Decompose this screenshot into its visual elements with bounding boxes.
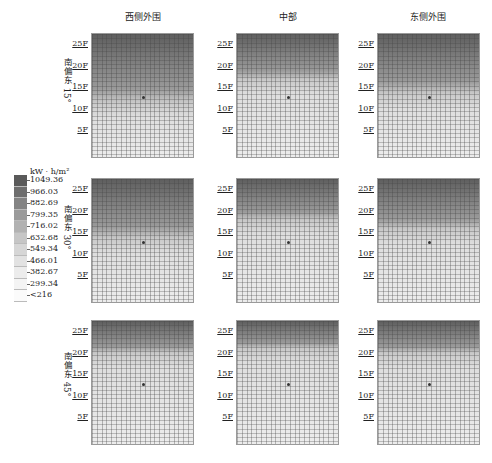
floor-label: 25F bbox=[64, 184, 88, 193]
measure-point-marker bbox=[142, 96, 145, 99]
legend-label: 1049.36 bbox=[30, 175, 63, 184]
floor-label: 5F bbox=[64, 125, 88, 134]
floor-label: 15F bbox=[64, 369, 88, 378]
floor-label: 20F bbox=[209, 206, 233, 215]
floor-label: 5F bbox=[350, 125, 374, 134]
floor-label: 5F bbox=[350, 270, 374, 279]
column-title-west: 西侧外围 bbox=[88, 10, 198, 23]
floor-label: 5F bbox=[209, 270, 233, 279]
heatmap-panel bbox=[91, 178, 194, 303]
legend-swatch bbox=[14, 175, 27, 187]
legend-label: 799.35 bbox=[30, 210, 58, 219]
legend-label: 549.34 bbox=[30, 244, 58, 253]
legend-swatch bbox=[14, 233, 27, 245]
floor-label: 15F bbox=[209, 82, 233, 91]
measure-point-marker bbox=[142, 241, 145, 244]
floor-label: 20F bbox=[64, 206, 88, 215]
measure-point-marker bbox=[287, 96, 290, 99]
legend-swatch bbox=[14, 187, 27, 199]
floor-label: 15F bbox=[350, 369, 374, 378]
floor-label: 15F bbox=[209, 369, 233, 378]
floor-label: 5F bbox=[64, 412, 88, 421]
floor-label: 10F bbox=[64, 391, 88, 400]
legend-label: 716.02 bbox=[30, 221, 58, 230]
floor-label: 10F bbox=[350, 249, 374, 258]
legend-swatch bbox=[14, 198, 27, 210]
legend-label: 882.69 bbox=[30, 198, 58, 207]
legend-label: 466.01 bbox=[30, 256, 58, 265]
floor-label: 5F bbox=[64, 270, 88, 279]
legend-swatch bbox=[14, 279, 27, 291]
legend-label: 382.67 bbox=[30, 267, 58, 276]
floor-label: 20F bbox=[350, 206, 374, 215]
floor-label: 5F bbox=[350, 412, 374, 421]
floor-label: 25F bbox=[209, 184, 233, 193]
floor-label: 10F bbox=[209, 391, 233, 400]
heatmap-panel bbox=[236, 33, 339, 158]
floor-label: 15F bbox=[350, 227, 374, 236]
heatmap-panel bbox=[236, 320, 339, 445]
measure-point-marker bbox=[428, 241, 431, 244]
column-title-east: 东侧外围 bbox=[373, 10, 483, 23]
floor-label: 15F bbox=[350, 82, 374, 91]
legend-label: 632.68 bbox=[30, 233, 58, 242]
floor-label: 20F bbox=[350, 348, 374, 357]
floor-label: 20F bbox=[64, 61, 88, 70]
floor-label: 10F bbox=[64, 249, 88, 258]
heatmap-panel bbox=[91, 320, 194, 445]
floor-label: 5F bbox=[209, 125, 233, 134]
floor-label: 20F bbox=[209, 61, 233, 70]
heatmap-panel bbox=[377, 178, 480, 303]
measure-point-marker bbox=[287, 383, 290, 386]
legend-swatch bbox=[14, 210, 27, 222]
floor-label: 25F bbox=[64, 326, 88, 335]
legend-swatch bbox=[14, 256, 27, 268]
floor-label: 10F bbox=[350, 391, 374, 400]
floor-label: 25F bbox=[209, 326, 233, 335]
floor-label: 10F bbox=[64, 104, 88, 113]
floor-label: 15F bbox=[209, 227, 233, 236]
floor-label: 15F bbox=[64, 227, 88, 236]
floor-label: 10F bbox=[350, 104, 374, 113]
floor-label: 20F bbox=[64, 348, 88, 357]
measure-point-marker bbox=[142, 383, 145, 386]
floor-label: 15F bbox=[64, 82, 88, 91]
legend-swatch bbox=[14, 244, 27, 256]
floor-label: 5F bbox=[209, 412, 233, 421]
legend-swatch bbox=[14, 267, 27, 279]
floor-label: 25F bbox=[350, 39, 374, 48]
floor-label: 25F bbox=[350, 326, 374, 335]
floor-label: 20F bbox=[209, 348, 233, 357]
legend-swatch bbox=[14, 221, 27, 233]
measure-point-marker bbox=[428, 383, 431, 386]
legend-label: <216 bbox=[30, 290, 52, 299]
heatmap-panel bbox=[91, 33, 194, 158]
floor-label: 25F bbox=[209, 39, 233, 48]
floor-label: 25F bbox=[350, 184, 374, 193]
floor-label: 25F bbox=[64, 39, 88, 48]
column-title-middle: 中部 bbox=[233, 10, 343, 23]
measure-point-marker bbox=[287, 241, 290, 244]
heatmap-panel bbox=[236, 178, 339, 303]
heatmap-panel bbox=[377, 320, 480, 445]
legend-label: 299.34 bbox=[30, 279, 58, 288]
floor-label: 10F bbox=[209, 249, 233, 258]
measure-point-marker bbox=[428, 96, 431, 99]
heatmap-panel bbox=[377, 33, 480, 158]
legend-label: 966.03 bbox=[30, 187, 58, 196]
legend-swatch bbox=[14, 290, 27, 302]
floor-label: 10F bbox=[209, 104, 233, 113]
floor-label: 20F bbox=[350, 61, 374, 70]
